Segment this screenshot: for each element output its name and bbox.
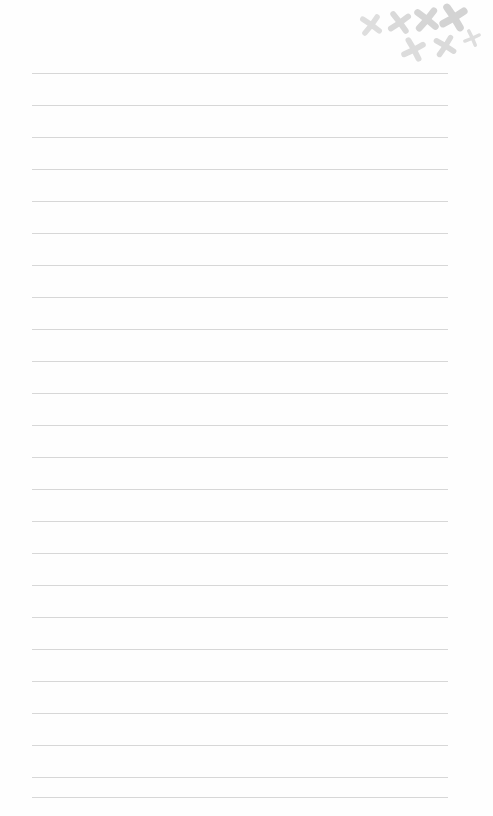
ruled-line[interactable] — [32, 617, 448, 618]
ruled-line[interactable] — [32, 425, 448, 426]
ruled-line[interactable] — [32, 105, 448, 106]
ruled-line[interactable] — [32, 553, 448, 554]
notepad-page — [0, 0, 493, 816]
ruled-line[interactable] — [32, 137, 448, 138]
ruled-line[interactable] — [32, 361, 448, 362]
ruled-lines-group — [0, 0, 493, 816]
ruled-line[interactable] — [32, 745, 448, 746]
ruled-line[interactable] — [32, 681, 448, 682]
ruled-line[interactable] — [32, 201, 448, 202]
ruled-line[interactable] — [32, 489, 448, 490]
ruled-line[interactable] — [32, 297, 448, 298]
ruled-line[interactable] — [32, 265, 448, 266]
ruled-line[interactable] — [32, 713, 448, 714]
ruled-line[interactable] — [32, 73, 448, 74]
ruled-line[interactable] — [32, 457, 448, 458]
ruled-line[interactable] — [32, 521, 448, 522]
ruled-line[interactable] — [32, 585, 448, 586]
ruled-line[interactable] — [32, 233, 448, 234]
ruled-line[interactable] — [32, 329, 448, 330]
ruled-line[interactable] — [32, 797, 448, 798]
ruled-line[interactable] — [32, 649, 448, 650]
ruled-line[interactable] — [32, 169, 448, 170]
ruled-line[interactable] — [32, 393, 448, 394]
ruled-line[interactable] — [32, 777, 448, 778]
